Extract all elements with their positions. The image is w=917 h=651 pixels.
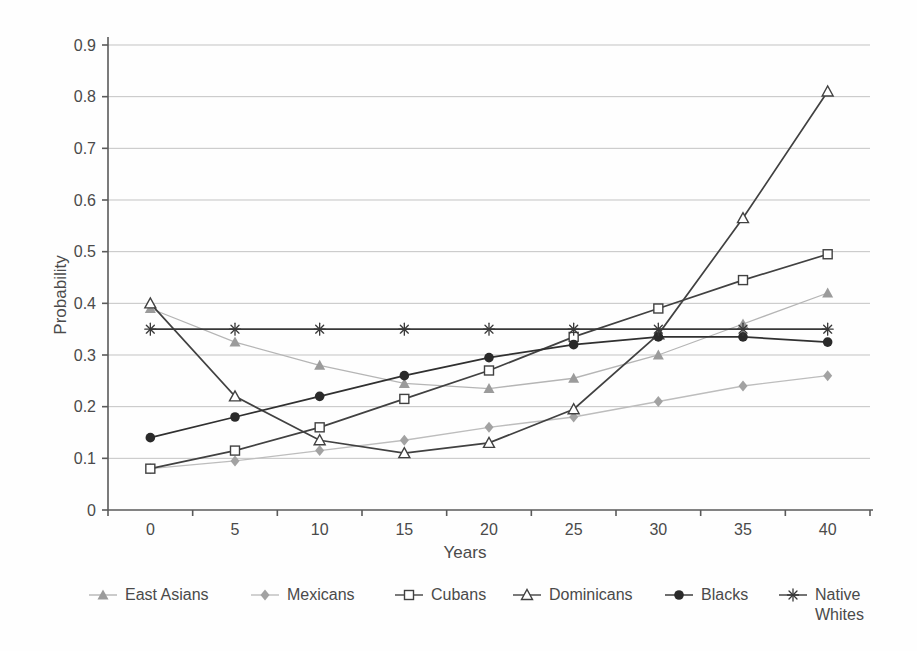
y-tick-label: 0.1 — [74, 450, 96, 467]
series-native-whites — [145, 323, 833, 335]
x-tick-label: 20 — [480, 521, 498, 538]
y-tick-label: 0.4 — [74, 295, 96, 312]
x-tick-label: 35 — [734, 521, 752, 538]
y-tick-label: 0.6 — [74, 192, 96, 209]
legend-item-native-whites: Native Whites — [778, 585, 871, 625]
gridlines — [108, 45, 870, 458]
x-axis-label: Years — [444, 543, 487, 562]
legend-item-mexicans: Mexicans — [250, 585, 355, 605]
x-tick-label: 25 — [565, 521, 583, 538]
x-tick-label: 30 — [649, 521, 667, 538]
legend-label-native-whites: Native Whites — [815, 585, 871, 625]
y-tick-label: 0.2 — [74, 398, 96, 415]
native-whites-marker-icon — [778, 587, 808, 603]
legend-label-cubans: Cubans — [431, 585, 486, 605]
legend-label-dominicans: Dominicans — [549, 585, 633, 605]
y-tick-label: 0.8 — [74, 88, 96, 105]
east-asians-marker-icon — [88, 587, 118, 603]
probability-line-chart-figure: 00.10.20.30.40.50.60.70.80.9051015202530… — [0, 0, 917, 651]
legend-label-blacks: Blacks — [701, 585, 748, 605]
y-tick-label: 0.5 — [74, 243, 96, 260]
legend-item-dominicans: Dominicans — [512, 585, 633, 605]
x-tick-label: 15 — [395, 521, 413, 538]
dominicans-marker-icon — [512, 587, 542, 603]
legend-label-mexicans: Mexicans — [287, 585, 355, 605]
x-tick-label: 0 — [146, 521, 155, 538]
mexicans-marker-icon — [250, 587, 280, 603]
y-axis-label: Probability — [51, 255, 70, 335]
y-tick-label: 0.9 — [74, 37, 96, 54]
chart-legend: East Asians Mexicans Cubans Dominicans B… — [0, 585, 917, 645]
y-tick-label: 0.3 — [74, 347, 96, 364]
x-tick-label: 40 — [819, 521, 837, 538]
legend-item-cubans: Cubans — [394, 585, 486, 605]
series-dominicans — [145, 86, 833, 458]
blacks-marker-icon — [664, 587, 694, 603]
x-tick-label: 5 — [231, 521, 240, 538]
legend-label-east-asians: East Asians — [125, 585, 209, 605]
legend-item-east-asians: East Asians — [88, 585, 209, 605]
legend-item-blacks: Blacks — [664, 585, 748, 605]
x-tick-label: 10 — [311, 521, 329, 538]
y-tick-label: 0 — [87, 502, 96, 519]
cubans-marker-icon — [394, 587, 424, 603]
probability-line-chart: 00.10.20.30.40.50.60.70.80.9051015202530… — [0, 0, 917, 580]
y-tick-label: 0.7 — [74, 140, 96, 157]
